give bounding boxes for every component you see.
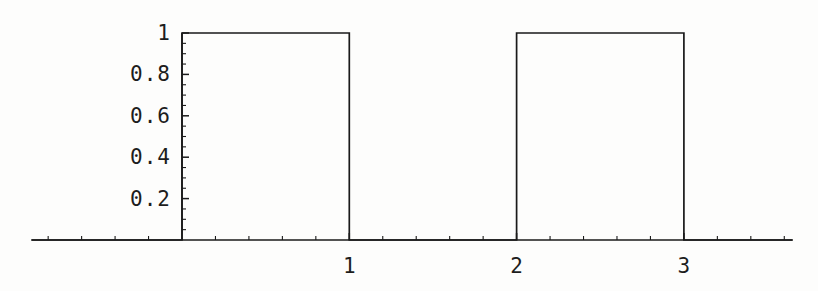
y-tick-label: 0.2 — [130, 187, 171, 211]
square-wave-chart: 10.80.60.40.2 123 — [0, 0, 818, 291]
y-tick-label: 0.8 — [130, 62, 171, 86]
x-tick-label: 1 — [329, 254, 369, 278]
y-tick-label: 0.4 — [130, 145, 171, 169]
y-tick-label: 0.6 — [130, 104, 171, 128]
x-tick-label: 2 — [497, 254, 537, 278]
x-tick-label: 3 — [664, 254, 704, 278]
y-tick-label: 1 — [157, 21, 171, 45]
plot-canvas — [0, 0, 818, 291]
